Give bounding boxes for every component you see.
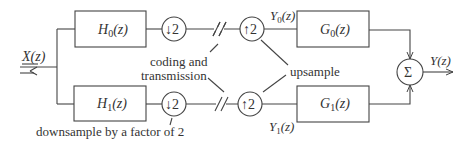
up-symbol-top: ↑2	[243, 22, 257, 37]
up-symbol-bottom: ↑2	[241, 97, 255, 112]
down-symbol-bottom: ↓2	[165, 97, 179, 112]
input-signal: X(z)	[20, 29, 75, 104]
y1-label: Y1(z)	[269, 119, 294, 136]
sigma-symbol: Σ	[404, 65, 412, 80]
g1-label: G1(z)	[320, 96, 350, 113]
h0-label: H0(z)	[97, 22, 128, 39]
down-symbol-top: ↓2	[165, 22, 179, 37]
filter-bank-diagram: X(z) H0(z) ↓2 ↑2 Y0(z) G0(z) H1(z) ↓2	[0, 0, 474, 148]
y0-label: Y0(z)	[270, 8, 295, 25]
input-label: X(z)	[21, 49, 46, 65]
coding-label-line2: transmission	[141, 68, 207, 83]
branch-top: H0(z) ↓2 ↑2 Y0(z) G0(z)	[75, 8, 410, 59]
downsample-label: downsample by a factor of 2	[36, 124, 184, 139]
output-label: Y(z)	[430, 53, 451, 68]
h1-label: H1(z)	[96, 96, 127, 113]
upsample-label: upsample	[290, 64, 340, 79]
coding-label-line1: coding and	[150, 54, 208, 69]
summer: Σ Y(z)	[397, 53, 453, 85]
g0-label: G0(z)	[320, 22, 350, 39]
